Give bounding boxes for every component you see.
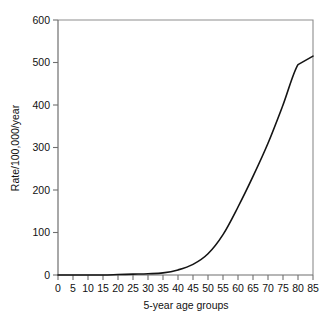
x-tick-label-20: 20	[112, 282, 124, 294]
x-tick-label-35: 35	[157, 282, 169, 294]
y-tick-label-200: 200	[32, 184, 50, 196]
x-tick-label-85: 85	[307, 282, 319, 294]
x-tick-label-45: 45	[187, 282, 199, 294]
x-tick-label-50: 50	[202, 282, 214, 294]
x-axis-title: 5-year age groups	[143, 299, 228, 311]
x-tick-label-60: 60	[232, 282, 244, 294]
y-axis-title: Rate/100,000/year	[9, 104, 21, 191]
x-tick-label-70: 70	[262, 282, 274, 294]
y-tick-label-0: 0	[44, 269, 50, 281]
y-tick-label-400: 400	[32, 99, 50, 111]
y-tick-label-500: 500	[32, 56, 50, 68]
x-tick-label-75: 75	[277, 282, 289, 294]
x-tick-label-15: 15	[97, 282, 109, 294]
x-tick-label-40: 40	[172, 282, 184, 294]
y-tick-label-600: 600	[32, 14, 50, 26]
x-tick-label-10: 10	[82, 282, 94, 294]
x-tick-label-65: 65	[247, 282, 259, 294]
y-tick-label-100: 100	[32, 226, 50, 238]
y-tick-label-300: 300	[32, 141, 50, 153]
chart-figure: 0 100 200 300 400 500 600	[0, 0, 332, 322]
x-tick-label-0: 0	[55, 282, 61, 294]
x-tick-label-55: 55	[217, 282, 229, 294]
x-tick-label-80: 80	[292, 282, 304, 294]
line-chart-svg: 0 100 200 300 400 500 600	[0, 0, 332, 322]
x-tick-label-5: 5	[70, 282, 76, 294]
x-tick-label-30: 30	[142, 282, 154, 294]
x-tick-label-25: 25	[127, 282, 139, 294]
